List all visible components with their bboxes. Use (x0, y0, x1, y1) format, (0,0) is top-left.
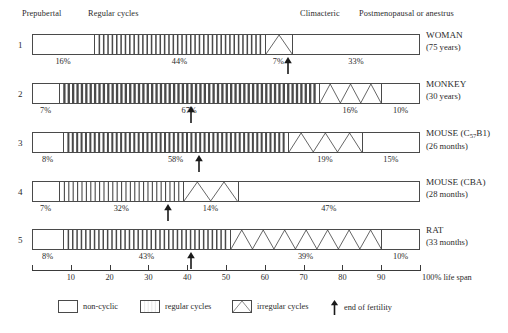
axis-tick-label: 20 (105, 273, 113, 282)
legend-swatch-irregular (232, 300, 252, 313)
species-lifespan: (75 years) (426, 42, 463, 54)
percent-life-span-axis: 102030405060708090100% life span (0, 262, 508, 288)
legend: non-cyclicregular cyclesirregular cycles… (0, 300, 508, 324)
bar-segment-non-cyclic (33, 84, 60, 103)
axis-tick (32, 265, 33, 271)
axis-tick (265, 265, 266, 271)
axis-tick (187, 265, 188, 271)
bar-segment-regular (60, 84, 320, 103)
bar-segment-irregular (266, 35, 293, 54)
bar-segment-regular (95, 35, 266, 54)
segment-percent-label: 16% (343, 106, 358, 115)
segment-percent-label: 8% (42, 155, 53, 164)
phase-label-climacteric: Climacteric (300, 9, 340, 18)
life-span-bar (32, 229, 420, 250)
species-row: 47%32%14%47%MOUSE (CBA)(28 months) (0, 175, 508, 223)
axis-tick-label: 40 (183, 273, 191, 282)
end-of-fertility-arrow-icon (284, 57, 293, 74)
end-of-fertility-arrow-icon (330, 300, 339, 315)
species-lifespan: (28 months) (426, 189, 485, 201)
life-span-bar (32, 181, 420, 202)
legend-label: non-cyclic (83, 302, 118, 311)
row-number: 1 (18, 40, 23, 50)
species-row: 38%58%19%15%MOUSE (C57B1)(26 months) (0, 126, 508, 174)
species-caption: RAT(33 months) (426, 225, 468, 248)
axis-tick-label: 70 (299, 273, 307, 282)
legend-item-irregular: irregular cycles (232, 300, 308, 313)
species-row: 116%44%7%33%WOMAN(75 years) (0, 28, 508, 76)
segment-percent-label: 7% (273, 57, 284, 66)
legend-label: end of fertility (344, 303, 392, 312)
axis-tick-label: 90 (377, 273, 385, 282)
axis-tick (304, 265, 305, 271)
species-caption: MOUSE (C57B1)(26 months) (426, 128, 490, 153)
segment-percent-label: 19% (317, 155, 332, 164)
axis-tick (226, 265, 227, 271)
segment-percent-label: 10% (393, 252, 408, 261)
segment-percent-label: 16% (55, 57, 70, 66)
life-span-bar (32, 132, 420, 153)
species-name-suffix: B1) (476, 128, 490, 138)
segment-percent-label: 14% (203, 204, 218, 213)
life-span-bar (32, 83, 420, 104)
legend-swatch-non-cyclic (58, 300, 78, 313)
bar-segment-non-cyclic (33, 230, 64, 249)
legend-label: irregular cycles (257, 302, 308, 311)
legend-swatch-regular (140, 300, 160, 313)
species-lifespan: (30 years) (426, 91, 466, 103)
axis-tick (71, 265, 72, 271)
segment-percent-label: 33% (348, 57, 363, 66)
row-number: 4 (18, 187, 23, 197)
legend-label: regular cycles (165, 302, 211, 311)
phase-label-prepubertal: Prepubertal (22, 9, 61, 18)
life-span-bar (32, 34, 420, 55)
bar-segment-regular (64, 133, 289, 152)
legend-item-regular: regular cycles (140, 300, 211, 313)
row-number: 5 (18, 235, 23, 245)
life-span-comparison-figure: PrepubertalRegular cyclesClimactericPost… (0, 0, 508, 333)
segment-percent-label: 47% (321, 204, 336, 213)
bar-segment-regular (60, 182, 184, 201)
segment-percent-label: 32% (114, 204, 129, 213)
axis-tick (342, 265, 343, 271)
species-name: RAT (426, 225, 468, 237)
bar-segment-non-cyclic (33, 35, 95, 54)
phase-label-postmenopausal-or-anestrus: Postmenopausal or anestrus (359, 9, 454, 18)
segment-percent-label: 44% (172, 57, 187, 66)
segment-percent-label: 58% (168, 155, 183, 164)
bar-segment-non-cyclic (363, 133, 421, 152)
bar-segment-irregular (289, 133, 363, 152)
legend-item-non-cyclic: non-cyclic (58, 300, 118, 313)
phase-label-regular-cycles: Regular cycles (88, 9, 138, 18)
axis-tick (148, 265, 149, 271)
species-name: WOMAN (426, 30, 463, 42)
axis-tick (420, 265, 421, 271)
bar-segment-irregular (320, 84, 382, 103)
segment-percent-label: 43% (139, 252, 154, 261)
bar-segment-non-cyclic (293, 35, 421, 54)
bar-segment-non-cyclic (382, 84, 421, 103)
row-number: 2 (18, 89, 23, 99)
axis-tick (110, 265, 111, 271)
end-of-fertility-arrow-icon (187, 106, 196, 123)
bar-segment-irregular (231, 230, 382, 249)
bar-segment-regular (64, 230, 231, 249)
bar-segment-non-cyclic (239, 182, 421, 201)
axis-tick-label: 30 (144, 273, 152, 282)
axis-tick-label: 100% life span (422, 273, 472, 282)
axis-tick-label: 60 (261, 273, 269, 282)
segment-percent-label: 15% (383, 155, 398, 164)
segment-percent-label: 39% (298, 252, 313, 261)
bar-segment-non-cyclic (33, 182, 60, 201)
species-name: MONKEY (426, 79, 466, 91)
species-lifespan: (33 months) (426, 237, 468, 249)
axis-tick-label: 80 (338, 273, 346, 282)
axis-tick-label: 50 (222, 273, 230, 282)
segment-percent-label: 7% (40, 204, 51, 213)
species-name-prefix: MOUSE (C (426, 128, 470, 138)
species-lifespan: (26 months) (426, 141, 490, 153)
segment-percent-label: 7% (40, 106, 51, 115)
bar-segment-non-cyclic (33, 133, 64, 152)
species-caption: MOUSE (CBA)(28 months) (426, 177, 485, 200)
species-row: 27%67%16%10%MONKEY(30 years) (0, 77, 508, 125)
